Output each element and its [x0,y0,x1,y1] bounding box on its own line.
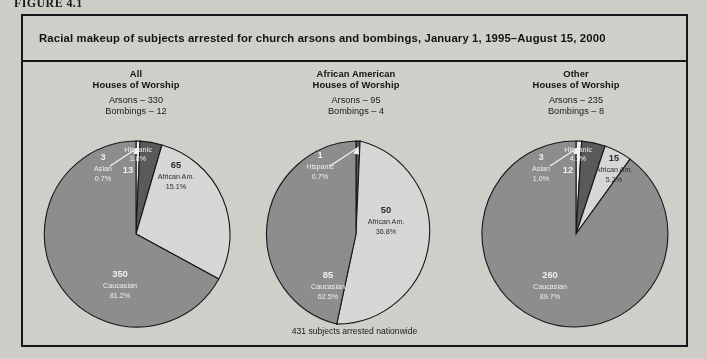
panel-arsons: Arsons – 235 [465,95,687,107]
pie-slices-other [482,141,668,327]
pie-svg-all [38,136,234,332]
panel-header-all: All Houses of Worship Arsons – 330 Bombi… [25,68,247,118]
pie-svg-other [478,136,674,332]
figure-label: FIGURE 4.1 [14,0,83,11]
panel-arsons: Arsons – 95 [245,95,467,107]
panel-heading-line1: All [25,68,247,79]
pie-slices-all [44,141,230,327]
panel-bombings: Bombings – 8 [465,106,687,118]
panel-heading-line2: Houses of Worship [25,79,247,90]
pie-svg-african-american [258,136,454,332]
chart-title: Racial makeup of subjects arrested for c… [39,32,606,44]
panel-heading-line1: Other [465,68,687,79]
panel-heading-line2: Houses of Worship [465,79,687,90]
panel-heading-line1: African American [245,68,467,79]
panel-header-other: Other Houses of Worship Arsons – 235 Bom… [465,68,687,118]
slice-caucasian [266,141,356,324]
panel-header-african-american: African American Houses of Worship Arson… [245,68,467,118]
pie-slices-african-american [266,141,429,324]
footer-note: 431 subjects arrested nationwide [23,326,686,336]
slice-caucasian [482,141,668,327]
pie-chart-african-american: 1 Hispanic 0.7% 50 African Am. 36.8% 85 … [245,136,467,346]
panel-arsons: Arsons – 330 [25,95,247,107]
panel-bombings: Bombings – 12 [25,106,247,118]
figure-panel: Racial makeup of subjects arrested for c… [21,14,688,347]
pie-chart-all: 3 Asian 0.7% Hispanic 3.8% 13 65 African… [25,136,247,346]
figure-root: FIGURE 4.1 Racial makeup of subjects arr… [0,0,707,359]
panel-heading-line2: Houses of Worship [245,79,467,90]
title-divider [23,60,686,62]
panel-bombings: Bombings – 4 [245,106,467,118]
pie-chart-other: 3 Asian 1.0% Hispanic 4.1% 12 15 African… [465,136,687,346]
